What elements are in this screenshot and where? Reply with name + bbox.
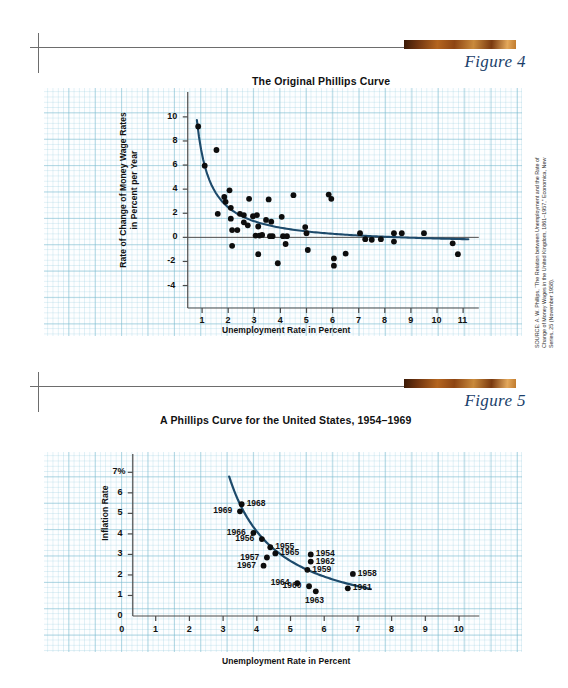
figure-5-point-label-1956: 1956 <box>235 533 254 543</box>
figure-4-x-tick-label: 10 <box>432 315 442 325</box>
figure-5-point-label-1961: 1961 <box>353 582 372 592</box>
figure-5-x-tick-label: 2 <box>187 624 192 634</box>
figure-4-x-tick-label: 11 <box>458 315 468 325</box>
figure-5-point-label-1967: 1967 <box>237 560 256 570</box>
figure-5-y-axis-title: Inflation Rate <box>100 468 111 558</box>
figure-5-y-tick-label: 5 <box>118 507 123 517</box>
figure-4-source-note: SOURCE: A. W. Phillips, “The Relation be… <box>534 152 556 348</box>
figure-5-y-axis-title-text: Inflation Rate <box>100 468 111 558</box>
figure-4-y-tick-label: 10 <box>167 111 177 121</box>
figure-4-x-tick-label: 5 <box>304 315 309 325</box>
figure-4-x-tick-label: 6 <box>330 315 335 325</box>
figure-4-axes-and-data <box>0 0 568 368</box>
figure-5-y-tick-label: 3 <box>118 548 123 558</box>
figure-5-x-tick-label: 6 <box>322 624 327 634</box>
figure-5-y-tick-label: 6 <box>118 487 123 497</box>
figure-4-x-tick-label: 2 <box>226 315 231 325</box>
figure-4-y-tick-label: 6 <box>173 159 178 169</box>
figure-4-y-axis-title: Rate of Change of Money Wage Rates in Pe… <box>118 90 140 290</box>
figure-5-x-tick-label: 3 <box>220 624 225 634</box>
figure-4-y-tick-label: 2 <box>173 207 178 217</box>
figure-4-y-tick-label: 8 <box>173 135 178 145</box>
figure-5-x-axis-title: Unemployment Rate in Percent <box>222 656 350 666</box>
figure-5-y-tick-label: 4 <box>118 528 123 538</box>
figure-4-x-tick-label: 8 <box>382 315 387 325</box>
figure-5-point-label-1960: 1960 <box>282 580 301 590</box>
figure-4-block: Figure 4 The Original Phillips Curve Rat… <box>0 0 568 368</box>
figure-5-block: Figure 5 A Phillips Curve for the United… <box>0 368 568 688</box>
figure-4-y-tick-label: 4 <box>173 183 178 193</box>
figure-5-x-tick-label: 0 <box>119 624 124 634</box>
figure-5-point-label-1969: 1969 <box>213 505 232 515</box>
figure-4-x-tick-label: 3 <box>252 315 257 325</box>
figure-5-point-label-1959: 1959 <box>312 564 331 574</box>
figure-4-x-tick-label: 4 <box>278 315 283 325</box>
figure-5-axes-and-data <box>0 368 568 688</box>
figure-4-y-axis-title-line2: in Percent per Year <box>129 90 140 290</box>
figure-5-x-tick-label: 7 <box>355 624 360 634</box>
figure-4-y-tick-label: 0 <box>173 231 178 241</box>
figure-4-y-tick-label: -4 <box>167 280 175 290</box>
figure-4-x-tick-label: 9 <box>408 315 413 325</box>
figure-5-y-tick-label: 1 <box>118 589 123 599</box>
figure-5-x-tick-label: 4 <box>254 624 259 634</box>
figure-5-x-tick-label: 5 <box>288 624 293 634</box>
figure-4-x-axis-title: Unemployment Rate in Percent <box>222 325 350 335</box>
figure-5-x-tick-label: 10 <box>454 624 464 634</box>
figure-5-point-label-1968: 1968 <box>247 498 266 508</box>
figure-5-point-label-1963: 1963 <box>305 595 324 605</box>
figure-5-y-tick-label: 2 <box>118 569 123 579</box>
figure-5-point-label-1965: 1965 <box>280 547 299 557</box>
figure-4-x-tick-label: 1 <box>199 315 204 325</box>
textbook-page: Figure 4 The Original Phillips Curve Rat… <box>0 0 568 688</box>
figure-5-y-tick-label: 7% <box>112 466 125 476</box>
figure-5-x-tick-label: 9 <box>423 624 428 634</box>
figure-5-y-tick-label: 0 <box>118 610 123 620</box>
figure-5-x-tick-label: 8 <box>389 624 394 634</box>
figure-5-point-label-1958: 1958 <box>358 568 377 578</box>
figure-4-y-axis-title-line1: Rate of Change of Money Wage Rates <box>118 90 129 290</box>
figure-4-x-tick-label: 7 <box>356 315 361 325</box>
figure-5-x-tick-label: 1 <box>153 624 158 634</box>
figure-4-y-tick-label: -2 <box>167 255 175 265</box>
